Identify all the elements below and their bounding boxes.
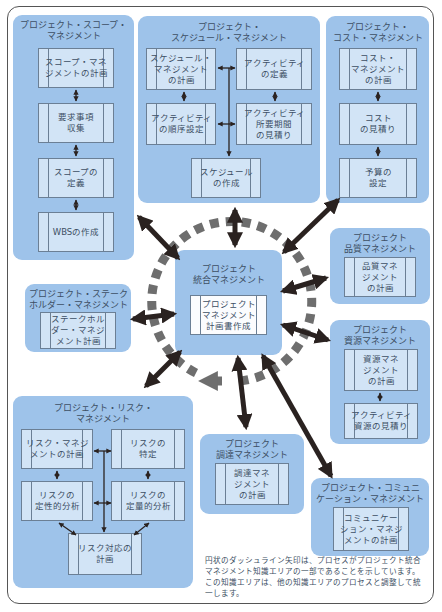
area-title: プロジェクト・リスク・ マネジメント [13,403,193,425]
area-title: プロジェクト・コミュニ ケーション・マネジメント [311,483,429,505]
area-integration-management: プロジェクト 統合マネジメント プロジェクト マネジメント 計画書作成 [175,250,282,355]
area-title: プロジェクト・ステーク ホルダー・マネジメント [25,289,131,311]
process-create-wbs[interactable]: WBSの作成 [38,212,114,252]
area-communication-management: プロジェクト・コミュニ ケーション・マネジメント コミュニケー ション・マネジ … [311,478,429,556]
area-stakeholder-management: プロジェクト・ステーク ホルダー・マネジメント ステークホル ダー・マネジ メン… [25,284,131,352]
process-sequence-activities[interactable]: アクティビティ の順序設定 [146,103,216,145]
area-schedule-management: プロジェクト・ スケジュール・マネジメント スケジュール・ マネジメント の計画… [138,16,320,203]
area-cost-management: プロジェクト・ コスト・マネジメント コスト・ マネジメント の計画 コスト の… [326,16,429,203]
process-plan-risk-management[interactable]: リスク・マネジ メントの計画 [21,429,93,469]
area-title: プロジェクト・ コスト・マネジメント [326,22,429,44]
process-plan-schedule-management[interactable]: スケジュール・ マネジメント の計画 [146,48,216,90]
area-title: プロジェクト・スコープ・ マネジメント [13,20,134,42]
area-title: プロジェクト 統合マネジメント [175,264,282,286]
area-title: プロジェクト・ スケジュール・マネジメント [138,22,320,44]
process-plan-procurement-management[interactable]: 調達マネ ジメント の計画 [215,463,289,505]
process-quantitative-risk-analysis[interactable]: リスクの 定量的分析 [111,481,185,521]
process-define-activities[interactable]: アクティビティ の定義 [236,48,312,90]
area-title: プロジェクト 資源マネジメント [330,325,430,347]
process-qualitative-risk-analysis[interactable]: リスクの 定性的分析 [21,481,93,521]
process-develop-schedule[interactable]: スケジュール の作成 [191,158,261,198]
process-plan-stakeholder-engagement[interactable]: ステークホル ダー・マネジ メント計画 [40,312,116,349]
process-estimate-activity-resources[interactable]: アクティビティ 資源の見積り [344,403,418,439]
process-identify-risks[interactable]: リスクの 特定 [111,429,185,469]
area-risk-management: プロジェクト・リスク・ マネジメント リスク・マネジ メントの計画 リスクの 特… [13,396,193,588]
process-plan-resource-management[interactable]: 資源マネ ジメント の計画 [344,349,418,391]
area-title: プロジェクト 調達マネジメント [200,439,304,461]
process-plan-cost-management[interactable]: コスト・ マネジメント の計画 [339,48,417,90]
process-plan-communications-management[interactable]: コミュニケー ション・マネジ メントの計画 [333,507,409,551]
area-procurement-management: プロジェクト 調達マネジメント 調達マネ ジメント の計画 [200,434,304,514]
area-resource-management: プロジェクト 資源マネジメント 資源マネ ジメント の計画 アクティビティ 資源… [330,320,430,444]
footnote: 円状のダッシュライン矢印は、プロセスがプロジェクト統合 マネジメント知識エリアの… [205,555,433,599]
process-plan-quality-management[interactable]: 品質マネ ジメント の計画 [344,257,416,297]
area-quality-management: プロジェクト 品質マネジメント 品質マネ ジメント の計画 [330,228,430,304]
process-estimate-durations[interactable]: アクティビティ 所要期間 の見積り [236,103,312,145]
process-estimate-costs[interactable]: コスト の見積り [339,103,417,145]
area-scope-management: プロジェクト・スコープ・ マネジメント スコープ・マネ ジメントの計画 要求事項… [13,15,134,260]
process-determine-budget[interactable]: 予算の 設定 [339,158,417,198]
process-plan-risk-responses[interactable]: リスク対応の 計画 [68,533,142,575]
area-title: プロジェクト 品質マネジメント [330,233,430,255]
process-scope-plan[interactable]: スコープ・マネ ジメントの計画 [38,48,114,88]
process-collect-requirements[interactable]: 要求事項 収集 [38,103,114,143]
process-develop-pm-plan[interactable]: プロジェクト マネジメント 計画書作成 [190,295,267,335]
process-define-scope[interactable]: スコープの 定義 [38,158,114,198]
